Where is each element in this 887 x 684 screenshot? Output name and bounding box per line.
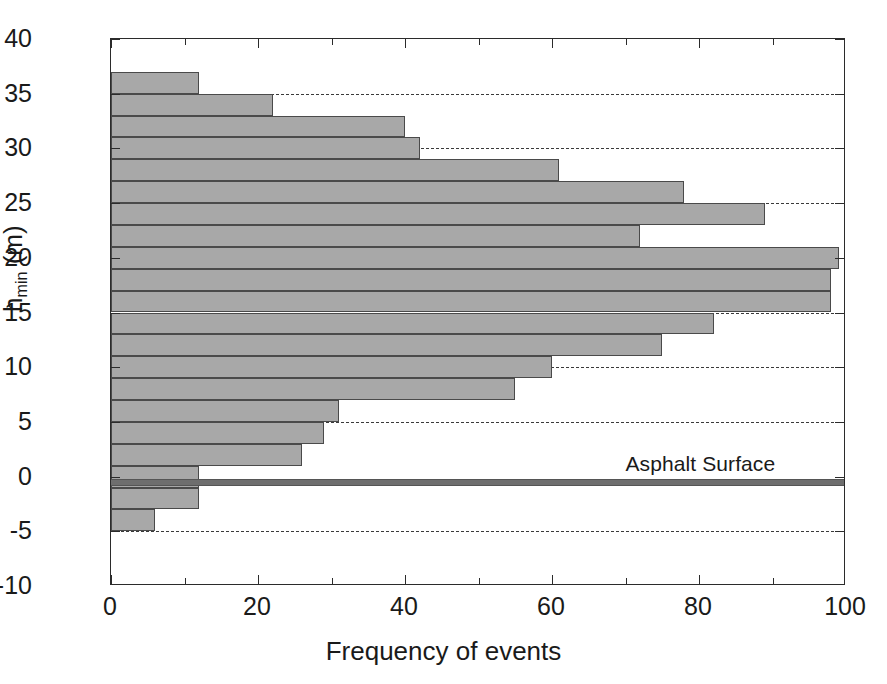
asphalt-surface-label: Asphalt Surface [626, 452, 776, 476]
x-axis-minor-tick [332, 39, 333, 45]
histogram-bar [111, 116, 405, 138]
y-tick-label: 5 [0, 406, 32, 435]
y-axis-tick [835, 313, 844, 314]
x-axis-minor-tick [479, 578, 480, 584]
y-axis-tick [111, 313, 120, 314]
y-tick-label: 30 [0, 133, 32, 162]
x-axis-tick [111, 39, 112, 48]
x-axis-tick [552, 39, 553, 48]
y-tick-label: 35 [0, 78, 32, 107]
histogram-bar [111, 422, 324, 444]
x-axis-minor-tick [626, 39, 627, 45]
y-axis-tick [111, 258, 120, 259]
x-axis-tick [699, 575, 700, 584]
y-axis-tick [111, 148, 120, 149]
y-axis-tick [111, 203, 120, 204]
histogram-bar [111, 444, 302, 466]
x-tick-label: 20 [243, 592, 271, 621]
histogram-bar [111, 247, 839, 269]
x-tick-label: 60 [537, 592, 565, 621]
histogram-bar [111, 313, 714, 335]
y-tick-label: -5 [0, 516, 32, 545]
histogram-bar [111, 378, 515, 400]
y-axis-tick [111, 39, 120, 40]
y-tick-label: 25 [0, 188, 32, 217]
x-axis-minor-tick [773, 578, 774, 584]
y-tick-label: 10 [0, 352, 32, 381]
x-axis-tick [405, 39, 406, 48]
histogram-bar [111, 291, 831, 313]
histogram-bar [111, 72, 199, 94]
histogram-bar [111, 509, 155, 531]
y-axis-tick [111, 367, 120, 368]
histogram-bar [111, 94, 273, 116]
histogram-bar [111, 356, 552, 378]
plot-area: Asphalt Surface [110, 38, 845, 585]
y-axis-tick [835, 477, 844, 478]
x-axis-title: Frequency of events [0, 636, 887, 667]
y-axis-tick [835, 258, 844, 259]
y-axis-tick [835, 367, 844, 368]
histogram-bar [111, 269, 831, 291]
x-tick-label: 80 [684, 592, 712, 621]
gridline [111, 531, 844, 532]
y-axis-tick [835, 94, 844, 95]
histogram-bar [111, 400, 339, 422]
y-axis-tick [835, 39, 844, 40]
y-tick-label: 15 [0, 297, 32, 326]
histogram-bar [111, 159, 559, 181]
x-tick-label: 0 [103, 592, 117, 621]
histogram-bar [111, 137, 420, 159]
x-axis-tick [111, 575, 112, 584]
y-axis-tick [835, 422, 844, 423]
y-tick-label: 20 [0, 242, 32, 271]
x-tick-label: 100 [824, 592, 866, 621]
y-tick-label: -10 [0, 571, 32, 600]
y-axis-tick [835, 531, 844, 532]
x-axis-tick [405, 575, 406, 584]
histogram-bar [111, 334, 662, 356]
y-axis-tick [111, 531, 120, 532]
histogram-bar [111, 181, 684, 203]
x-axis-tick [258, 39, 259, 48]
x-axis-tick [552, 575, 553, 584]
x-axis-minor-tick [479, 39, 480, 45]
x-axis-minor-tick [773, 39, 774, 45]
x-axis-tick [699, 39, 700, 48]
histogram-figure: hmin (m) Frequency of events -10-5051015… [0, 0, 887, 684]
y-axis-tick [111, 477, 120, 478]
x-tick-label: 40 [390, 592, 418, 621]
y-tick-label: 0 [0, 461, 32, 490]
histogram-bar [111, 488, 199, 510]
y-axis-title-sub: min [12, 272, 30, 298]
y-tick-label: 40 [0, 24, 32, 53]
x-axis-minor-tick [185, 39, 186, 45]
x-axis-minor-tick [626, 578, 627, 584]
histogram-bar [111, 225, 640, 247]
histogram-bar [111, 203, 765, 225]
x-axis-minor-tick [185, 578, 186, 584]
y-axis-tick [111, 94, 120, 95]
y-axis-tick [835, 203, 844, 204]
y-axis-tick [111, 422, 120, 423]
x-axis-tick [258, 575, 259, 584]
y-axis-tick [835, 148, 844, 149]
x-axis-minor-tick [332, 578, 333, 584]
asphalt-surface-line [111, 479, 844, 486]
